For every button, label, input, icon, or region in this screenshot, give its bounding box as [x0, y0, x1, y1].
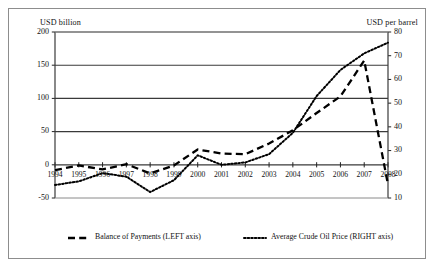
y-axis-right-tick-label: 80: [394, 27, 422, 36]
y-axis-right-tick-label: 50: [394, 98, 422, 107]
y-axis-left-tick-label: -50: [21, 193, 49, 202]
legend-item-label: Balance of Payments (LEFT axis): [95, 232, 201, 241]
y-axis-left-tick-label: 150: [21, 60, 49, 69]
chart-figure: USD billion USD per barrel -500501001502…: [0, 0, 434, 267]
y-axis-right-tick-label: 30: [394, 145, 422, 154]
y-axis-left-tick-label: 0: [21, 160, 49, 169]
plot-area: [0, 0, 434, 267]
x-axis-tick-label: 2008: [373, 170, 403, 179]
y-axis-right-tick-label: 60: [394, 74, 422, 83]
y-axis-right-tick-label: 70: [394, 51, 422, 60]
y-axis-left-tick-label: 200: [21, 27, 49, 36]
y-axis-left-tick-label: 100: [21, 93, 49, 102]
y-axis-right-tick-label: 10: [394, 193, 422, 202]
y-axis-left-tick-label: 50: [21, 126, 49, 135]
legend-item-label: Average Crude Oil Price (RIGHT axis): [271, 232, 393, 241]
y-axis-right-tick-label: 40: [394, 122, 422, 131]
